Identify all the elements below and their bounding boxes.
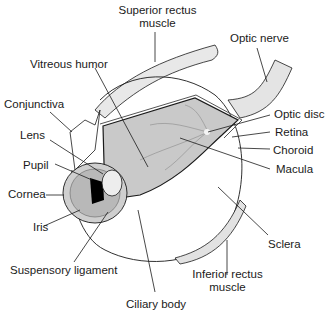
inferior-rectus-muscle-shape xyxy=(175,200,246,264)
label-cornea: Cornea xyxy=(8,188,46,201)
label-sclera: Sclera xyxy=(268,238,301,251)
label-superior-rectus: Superior rectus muscle xyxy=(115,4,200,30)
label-vitreous-humor: Vitreous humor xyxy=(30,58,108,71)
conjunctiva-shape xyxy=(70,110,100,170)
label-optic-nerve: Optic nerve xyxy=(230,32,289,45)
lens-shape xyxy=(102,170,122,196)
label-lens: Lens xyxy=(20,129,45,142)
label-pupil: Pupil xyxy=(23,159,49,172)
label-macula: Macula xyxy=(276,163,313,176)
eye-anatomy-diagram: Superior rectus muscle Optic nerve Vitre… xyxy=(0,0,335,314)
label-retina: Retina xyxy=(275,126,308,139)
label-suspensory-ligament: Suspensory ligament xyxy=(10,264,117,277)
label-choroid: Choroid xyxy=(273,144,313,157)
label-optic-disc: Optic disc xyxy=(274,108,325,121)
label-ciliary-body: Ciliary body xyxy=(126,298,186,311)
label-conjunctiva: Conjunctiva xyxy=(4,98,64,111)
label-inferior-rectus: Inferior rectus muscle xyxy=(185,268,270,294)
label-iris: Iris xyxy=(33,221,48,234)
